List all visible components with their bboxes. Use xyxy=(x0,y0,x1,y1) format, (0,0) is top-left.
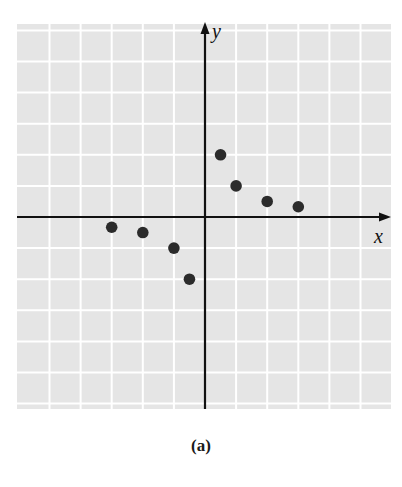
data-point xyxy=(261,196,273,208)
data-point xyxy=(230,180,242,192)
y-axis-label: y xyxy=(210,20,221,43)
data-point xyxy=(184,273,196,285)
data-point xyxy=(293,201,305,213)
data-point xyxy=(215,149,227,161)
data-point xyxy=(168,242,180,254)
data-point xyxy=(106,221,118,233)
scatter-plot: x y xyxy=(0,0,402,430)
figure-caption: (a) xyxy=(0,436,402,456)
data-point xyxy=(137,227,149,239)
x-axis-label: x xyxy=(373,225,383,247)
